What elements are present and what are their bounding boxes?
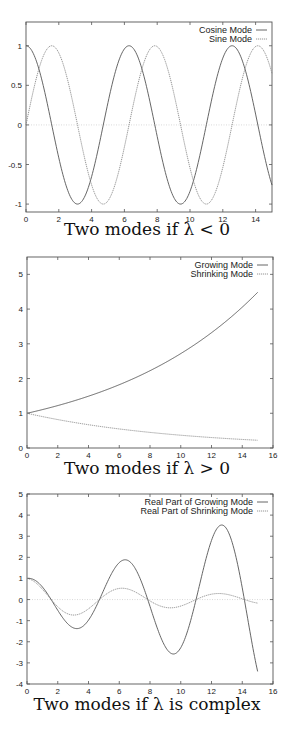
y-tick-label: -3: [16, 659, 24, 668]
plot-frame: [27, 494, 273, 684]
y-tick-label: -2: [16, 638, 24, 647]
y-tick-label: 3: [19, 532, 24, 541]
series-line-solid: [27, 525, 258, 671]
plot-area: 0246810121416-4-3-2-1012345Real Part of …: [0, 0, 294, 700]
legend-label: Real Part of Shrinking Mode: [140, 506, 253, 516]
y-tick-label: 0: [19, 596, 24, 605]
y-tick-label: -4: [16, 680, 24, 689]
y-tick-label: 5: [19, 490, 24, 499]
y-tick-label: 1: [19, 574, 24, 583]
y-tick-label: 4: [19, 511, 24, 520]
y-tick-label: -1: [16, 617, 24, 626]
y-tick-label: 2: [19, 553, 24, 562]
chart-complex-modes: 0246810121416-4-3-2-1012345Real Part of …: [0, 0, 294, 729]
chart-caption: Two modes if λ is complex: [0, 694, 294, 714]
